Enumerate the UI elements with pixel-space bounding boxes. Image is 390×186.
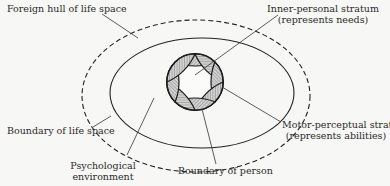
label-psych-env-line1: Psychological — [68, 160, 138, 171]
label-foreign-hull: Foreign hull of life space — [7, 3, 127, 14]
leader-motor-perceptual — [222, 87, 281, 122]
leader-psych-env — [127, 98, 154, 155]
label-psych-env-line2: environment — [68, 171, 138, 182]
label-psychological-environment: Psychological environment — [68, 160, 138, 182]
label-motor-perceptual-subtitle: (represents abilities) — [282, 130, 390, 141]
label-motor-perceptual-title: Motor-perceptual stratum — [282, 119, 390, 130]
leader-boundary-person — [202, 109, 216, 164]
label-boundary-of-person: Boundary of person — [178, 165, 273, 176]
label-motor-perceptual-stratum: Motor-perceptual stratum (represents abi… — [282, 119, 390, 141]
leader-foreign-hull — [102, 14, 138, 38]
label-inner-personal-title: Inner-personal stratum — [262, 3, 384, 14]
label-inner-personal-stratum: Inner-personal stratum (represents needs… — [262, 3, 384, 25]
life-space-diagram — [0, 0, 390, 186]
label-boundary-life-space: Boundary of life space — [7, 125, 115, 136]
label-inner-personal-subtitle: (represents needs) — [262, 14, 384, 25]
